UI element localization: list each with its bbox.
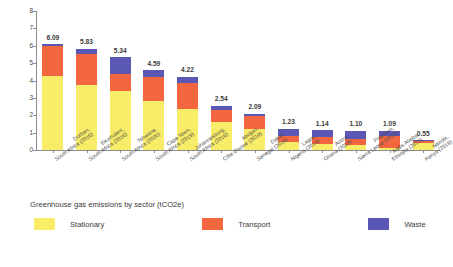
legend-item-stationary[interactable]: Stationary (34, 218, 104, 230)
legend-swatch-transport (202, 218, 223, 230)
legend-item-waste[interactable]: Waste (368, 218, 425, 230)
bar-segment-waste[interactable] (177, 77, 198, 84)
bar-value-label: 1.14 (316, 121, 329, 128)
bar-segment-waste[interactable] (143, 70, 164, 77)
bar-segment-transport[interactable] (76, 54, 97, 85)
bar-segment-waste[interactable] (110, 57, 131, 74)
bar-value-label: 4.59 (147, 61, 160, 68)
y-axis-tick-label: 7 (0, 25, 33, 31)
bar-stack[interactable]: 6.09 (42, 44, 63, 150)
bar-segment-stationary[interactable] (42, 76, 63, 150)
y-axis-tick-label: 8 (0, 8, 33, 14)
bar-segment-transport[interactable] (110, 74, 131, 91)
legend-title: Greenhouse gas emissions by sector (tCO2… (30, 200, 420, 209)
bar-value-label: 2.54 (215, 96, 228, 103)
x-axis-category-labels: Durban,South Africa (2016)Ekurhuleni,Sou… (0, 152, 449, 198)
bar-value-label: 4.22 (181, 67, 194, 74)
bar-segment-transport[interactable] (42, 46, 63, 76)
y-axis-tick-label: 4 (0, 78, 33, 84)
legend-label-transport: Transport (238, 220, 270, 229)
legend-item-transport[interactable]: Transport (202, 218, 270, 230)
bar-value-label: 2.09 (248, 104, 261, 111)
bar-segment-transport[interactable] (177, 83, 198, 109)
y-axis-tick-label: 5 (0, 60, 33, 66)
bar-group: 6.095.835.344.594.222.542.091.231.141.10… (36, 11, 440, 150)
y-axis-tick-label: 2 (0, 112, 33, 118)
y-axis-tick-label: 6 (0, 43, 33, 49)
bar-value-label: 5.83 (80, 39, 93, 46)
bar-value-label: 6.09 (46, 35, 59, 42)
bar-value-label: 1.10 (349, 121, 362, 128)
y-axis-tick-label: 3 (0, 95, 33, 101)
legend-swatch-stationary (34, 218, 55, 230)
y-axis-tick-label: 1 (0, 130, 33, 136)
chart-legend: Greenhouse gas emissions by sector (tCO2… (30, 200, 420, 256)
legend-label-stationary: Stationary (70, 220, 104, 229)
bar-value-label: 5.34 (114, 48, 127, 55)
bar-value-label: 1.23 (282, 119, 295, 126)
legend-label-waste: Waste (404, 220, 425, 229)
y-axis-tick-mark (33, 150, 36, 151)
bar-segment-transport[interactable] (143, 77, 164, 101)
legend-swatch-waste (368, 218, 389, 230)
legend-item-group: StationaryTransportWaste (30, 218, 420, 230)
bar-segment-transport[interactable] (211, 110, 232, 122)
